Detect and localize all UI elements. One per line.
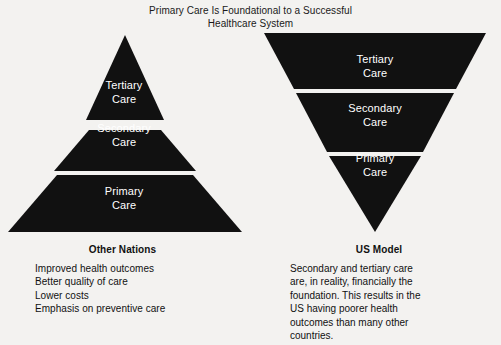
left-pyramid-upright: Tertiary Care Secondary Care Primary Car…	[0, 30, 250, 237]
left-caption-line: Emphasis on preventive care	[35, 302, 235, 316]
right-pyramid-tier-secondary	[296, 93, 454, 152]
left-caption-line: Better quality of care	[35, 275, 235, 289]
right-caption-line: Secondary and tertiary care	[290, 262, 475, 276]
right-pyramid-tier-primary	[329, 156, 421, 232]
left-caption-heading: Other Nations	[35, 243, 210, 257]
right-caption-line: outcomes than many other	[290, 316, 475, 330]
left-pyramid-tier-tertiary	[86, 35, 164, 120]
page-title-line-2: Healthcare System	[0, 17, 501, 30]
left-pyramid-tier-primary	[8, 175, 242, 232]
page-title-line-1: Primary Care Is Foundational to a Succes…	[0, 4, 501, 17]
right-caption-line: are, in reality, financially the	[290, 275, 475, 289]
right-caption-heading: US Model	[290, 243, 468, 257]
left-caption-line: Lower costs	[35, 289, 235, 303]
right-pyramid-tier-tertiary	[264, 33, 486, 89]
right-caption-line: foundation. This results in the	[290, 289, 475, 303]
right-caption-line: US having poorer health	[290, 302, 475, 316]
left-caption-line: Improved health outcomes	[35, 262, 235, 276]
left-pyramid-tier-secondary	[54, 130, 196, 171]
page-title: Primary Care Is Foundational to a Succes…	[0, 4, 501, 30]
left-caption-block: Other Nations Improved health outcomes B…	[35, 243, 235, 316]
right-caption-line: countries.	[290, 329, 475, 343]
diagram-page: Primary Care Is Foundational to a Succes…	[0, 0, 501, 345]
right-pyramid-inverted: Tertiary Care Secondary Care Primary Car…	[258, 30, 498, 237]
right-caption-block: US Model Secondary and tertiary care are…	[290, 243, 475, 343]
